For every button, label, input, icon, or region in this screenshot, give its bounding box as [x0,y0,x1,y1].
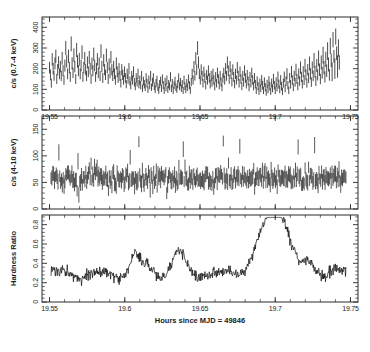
x-axis-label: Hours since MJD = 49846 [155,316,245,325]
y-axis-label-1: c/s (0.7-4 keV) [9,38,18,89]
y-tick-label: 0 [32,108,39,112]
y-tick-label: 150 [32,123,39,134]
lightcurve-figure: 010020030040019.5519.619.6519.719.75c/s … [0,0,370,352]
y-tick-label: 0 [32,300,39,304]
x-tick-label: 19.6 [118,305,131,312]
panel-2: 050100150c/s (4-10 keV) [9,116,358,211]
panel-3: 00.20.40.60.819.5519.619.6519.719.75Hard… [9,215,359,312]
x-tick-label: 19.75 [342,305,359,312]
y-tick-label: 0.6 [32,239,39,248]
x-tick-label: 19.65 [192,305,209,312]
y-axis-label-3: Hardness Ratio [9,231,18,286]
panel-1: 010020030040019.5519.619.6519.719.75c/s … [9,0,359,120]
y-tick-label: 0 [32,207,39,211]
y-tick-label: 0.2 [32,278,39,287]
panel-frame-3 [42,215,358,302]
data-series-1 [50,0,351,96]
y-tick-label: 0.8 [32,220,39,229]
plot-canvas: 010020030040019.5519.619.6519.719.75c/s … [0,0,370,352]
y-tick-label: 400 [32,21,39,32]
x-tick-label: 19.55 [41,305,58,312]
x-tick-label: 19.7 [269,305,282,312]
y-tick-label: 200 [32,63,39,74]
hardness-ratio-curve [51,217,346,285]
y-tick-label: 50 [32,178,39,186]
y-tick-label: 300 [32,42,39,53]
data-series-3 [51,217,346,285]
y-tick-label: 0.4 [32,258,39,267]
y-tick-label: 100 [32,83,39,94]
y-tick-label: 100 [32,150,39,161]
data-series-2 [51,136,346,203]
y-axis-label-2: c/s (4-10 keV) [9,138,18,186]
